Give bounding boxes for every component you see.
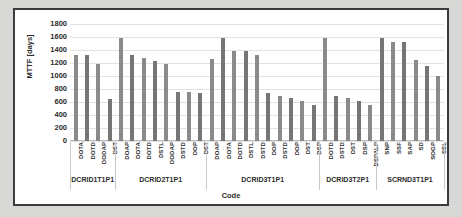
bar [74, 55, 78, 141]
x-tick-label: DOTD [237, 142, 243, 159]
bar [142, 58, 146, 141]
group-label: SCRND3T1P1 [376, 176, 444, 183]
group-separator [319, 142, 320, 190]
x-tick-label: DOTA [135, 142, 141, 159]
x-tick-label: SOGP [430, 142, 436, 160]
x-axis-category-labels: DOTADOTDDODAPDSTDOAPDOTADOTDDSTLDODAPDST… [70, 142, 444, 176]
x-tick-label: DSTL [248, 142, 254, 158]
bar [176, 92, 180, 141]
bar [266, 93, 270, 141]
bar [436, 76, 440, 141]
x-tick-label: DSTD [260, 142, 266, 159]
group-separator [206, 142, 207, 190]
x-tick-label: DOTD [328, 142, 334, 159]
bar [289, 98, 293, 141]
bar [323, 38, 327, 141]
x-tick-label: DSTD [339, 142, 345, 159]
x-tick-label: DOAP [214, 142, 220, 160]
x-tick-label: SD [418, 142, 424, 151]
bar [85, 55, 89, 141]
x-tick-label: DOTD [146, 142, 152, 159]
bar [312, 105, 316, 141]
bar [255, 55, 259, 141]
bar [414, 60, 418, 141]
group-separator [115, 142, 116, 190]
x-tick-label: DSP [362, 142, 368, 155]
bar [380, 38, 384, 141]
bar [391, 42, 395, 141]
group-label: DCRID2T1P1 [115, 176, 206, 183]
bar [357, 101, 361, 141]
bar [346, 98, 350, 141]
x-tick-label: DOP [192, 142, 198, 155]
group-label: DCRID3T1P1 [206, 176, 319, 183]
bar [164, 64, 168, 141]
x-tick-label: DSTD [282, 142, 288, 159]
bar [402, 42, 406, 141]
x-tick-label: DODAP [101, 142, 107, 164]
bar [278, 96, 282, 142]
x-tick-label: DOTD [90, 142, 96, 159]
bar [425, 66, 429, 141]
group-separator [70, 142, 71, 190]
y-tick-label: 200 [27, 124, 67, 132]
bar [300, 101, 304, 141]
x-axis-title: Code [15, 191, 447, 200]
bar [232, 51, 236, 141]
group-label: DCRID1T1P1 [70, 176, 115, 183]
bar [198, 93, 202, 141]
x-tick-label: DOP [271, 142, 277, 155]
x-axis-group-labels: DCRID1T1P1DCRID2T1P1DCRID3T1P1DCRID3T2P1… [70, 176, 444, 190]
y-tick-label: 0 [27, 137, 67, 145]
bar [96, 64, 100, 141]
bar [368, 105, 372, 141]
y-tick-label: 600 [27, 98, 67, 106]
chart-figure: 180016001400120010008006004002000 MTTF [… [13, 8, 449, 206]
x-tick-label: DSTD [180, 142, 186, 159]
bar [153, 61, 157, 141]
bar [244, 51, 248, 141]
x-tick-label: DST [305, 142, 311, 154]
x-tick-label: DODAP [169, 142, 175, 164]
x-tick-label: DSTL [158, 142, 164, 158]
bar [130, 55, 134, 141]
x-tick-label: DOTA [226, 142, 232, 159]
x-tick-label: DOAP [124, 142, 130, 160]
bar [334, 96, 338, 142]
bar [210, 59, 214, 141]
bar [108, 99, 112, 141]
y-tick-label: 400 [27, 111, 67, 119]
bar [187, 92, 191, 141]
x-tick-label: SSF [396, 142, 402, 154]
y-axis-title: MTTF [days] [25, 17, 34, 97]
x-tick-label: DOTA [78, 142, 84, 159]
screenshot-root: 180016001400120010008006004002000 MTTF [… [0, 0, 462, 217]
bar [119, 38, 123, 141]
group-label: DCRID3T2P1 [319, 176, 376, 183]
bar-series [70, 24, 444, 141]
x-tick-label: SAP [407, 142, 413, 155]
x-tick-label: DST [350, 142, 356, 154]
bar [221, 38, 225, 141]
x-tick-label: SNP [384, 142, 390, 155]
group-separator [376, 142, 377, 190]
x-tick-label: DOP [294, 142, 300, 155]
group-separator [444, 142, 445, 190]
